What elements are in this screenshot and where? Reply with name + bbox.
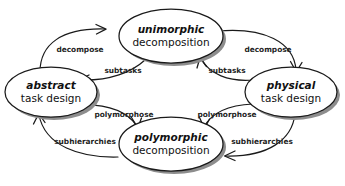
node-polymorphic-line2: decomposition <box>132 144 209 156</box>
node-unimorphic-line1: unimorphic <box>138 23 205 35</box>
node-polymorphic-line1: polymorphic <box>133 131 208 143</box>
node-abstract-task-design[interactable]: abstract task design <box>5 67 100 120</box>
edge-label-decompose-right: decompose <box>244 45 291 54</box>
edge-label-subhierarchies-right: subhierarchies <box>231 137 293 146</box>
node-abstract-line1: abstract <box>26 79 76 91</box>
edge-label-decompose-left: decompose <box>56 45 103 54</box>
edge-label-polymorphose-right: polymorphose <box>197 110 256 119</box>
node-polymorphic-decomposition[interactable]: polymorphic decomposition <box>119 117 226 174</box>
node-physical-task-design[interactable]: physical task design <box>245 67 340 120</box>
edge-label-subtasks-left: subtasks <box>104 66 142 75</box>
edge-polymorphic-to-physical-path <box>226 114 295 156</box>
edge-polymorphic-to-abstract <box>34 114 119 158</box>
node-abstract-line2: task design <box>21 92 81 104</box>
edge-label-subtasks-right: subtasks <box>208 66 246 75</box>
edge-label-subhierarchies-left: subhierarchies <box>54 137 116 146</box>
node-physical-line2: task design <box>261 92 321 104</box>
edge-label-polymorphose-left: polymorphose <box>94 110 153 119</box>
diagram-canvas: unimorphic decomposition physical task d… <box>0 0 345 186</box>
node-unimorphic-line2: decomposition <box>132 36 209 48</box>
node-physical-line1: physical <box>266 79 316 91</box>
cycle-diagram: unimorphic decomposition physical task d… <box>0 0 345 186</box>
node-unimorphic-decomposition[interactable]: unimorphic decomposition <box>119 9 226 66</box>
